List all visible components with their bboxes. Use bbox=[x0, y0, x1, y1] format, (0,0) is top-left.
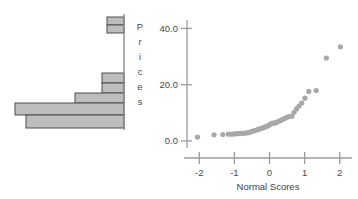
scatter-point bbox=[220, 132, 225, 137]
histogram-bars bbox=[15, 17, 124, 128]
y-tick-label: 20.0 bbox=[160, 79, 179, 90]
histogram-bar bbox=[75, 93, 124, 103]
x-axis-title: Normal Scores bbox=[237, 181, 300, 192]
scatter-point bbox=[314, 88, 319, 93]
x-tick-label: 1 bbox=[302, 167, 307, 178]
y-axis-title-letter: P bbox=[137, 21, 143, 32]
x-tick-label: 0 bbox=[267, 167, 272, 178]
scatter-point bbox=[324, 55, 329, 60]
histogram-bar bbox=[102, 83, 124, 93]
y-tick-label: 0.0 bbox=[165, 135, 178, 146]
y-axis-title-letter: e bbox=[137, 81, 142, 92]
y-axis-tick-labels: 0.020.040.0 bbox=[160, 23, 179, 147]
figure-container: 0.020.040.0 -2-1012 Normal Scores Prices bbox=[0, 0, 358, 199]
scatter-point bbox=[306, 89, 311, 94]
y-axis-title-letter: s bbox=[138, 96, 143, 107]
scatter-point bbox=[195, 134, 200, 139]
y-axis-title-letter: i bbox=[139, 51, 141, 62]
y-axis-title-letter: c bbox=[138, 66, 143, 77]
histogram-bar bbox=[107, 25, 124, 33]
x-axis-tick-labels: -2-1012 bbox=[195, 167, 342, 178]
scatter-point bbox=[299, 100, 304, 105]
scatter-points bbox=[195, 44, 343, 139]
y-axis-title: Prices bbox=[137, 21, 143, 107]
normal-probability-plot-panel: 0.020.040.0 -2-1012 Normal Scores Prices bbox=[137, 20, 352, 192]
y-axis-title-letter: r bbox=[138, 36, 141, 47]
histogram-bar bbox=[15, 103, 124, 115]
figure-svg: 0.020.040.0 -2-1012 Normal Scores Prices bbox=[0, 0, 358, 199]
x-tick-label: 2 bbox=[337, 167, 342, 178]
x-tick-label: -1 bbox=[230, 167, 238, 178]
scatter-point bbox=[302, 96, 307, 101]
histogram-bar bbox=[107, 17, 124, 25]
histogram-panel bbox=[15, 14, 124, 130]
scatter-point bbox=[338, 44, 343, 49]
histogram-bar bbox=[102, 73, 124, 83]
y-tick-label: 40.0 bbox=[160, 23, 179, 34]
x-tick-label: -2 bbox=[195, 167, 203, 178]
histogram-bar bbox=[26, 115, 124, 128]
scatter-point bbox=[211, 132, 216, 137]
